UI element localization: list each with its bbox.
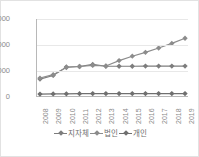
data-point-marker (103, 63, 108, 68)
data-point-marker (143, 91, 148, 96)
legend-item-1[interactable]: 법인 (90, 129, 118, 138)
gridline (37, 19, 188, 20)
x-axis-tick-label: 2019 (188, 114, 195, 124)
plot-area (36, 19, 188, 97)
legend-label: 법인 (104, 129, 118, 138)
data-point-marker (143, 63, 148, 68)
x-axis-label-group: 2008200920102011201220132014201520162017… (36, 98, 188, 128)
data-point-marker (156, 91, 161, 96)
y-axis-tick-label: 2000 (0, 41, 10, 49)
x-axis-tick-label: 2018 (175, 114, 182, 124)
y-axis-tick-label: 3000 (0, 15, 10, 23)
legend-marker-icon (119, 130, 132, 137)
data-point-marker (90, 91, 95, 96)
data-point-marker (156, 63, 161, 68)
x-axis-tick-label: 2011 (82, 114, 89, 124)
data-point-marker (77, 64, 82, 69)
x-axis-tick-label: 2008 (42, 114, 49, 124)
data-point-marker (116, 91, 121, 96)
legend-item-2[interactable]: 개인 (119, 129, 147, 138)
x-axis-tick-label: 2014 (122, 114, 129, 124)
data-point-marker (130, 64, 135, 69)
data-point-marker (169, 91, 174, 96)
data-point-marker (130, 54, 135, 59)
chart-legend: 지자체법인개인 (1, 129, 199, 138)
x-axis-tick-label: 2012 (95, 114, 102, 124)
y-axis-tick-label: 0 (0, 93, 10, 101)
x-axis-tick-label: 2015 (135, 114, 142, 124)
y-axis-tick-label: 1000 (0, 67, 10, 75)
data-point-marker (90, 63, 95, 68)
chart-container: 3000200010000 20082009201020112012201320… (0, 0, 199, 157)
data-point-marker (182, 63, 187, 68)
data-point-marker (50, 91, 55, 96)
data-point-marker (103, 91, 108, 96)
gridline (37, 45, 188, 46)
data-point-marker (64, 65, 69, 70)
data-point-marker (169, 63, 174, 68)
legend-marker-icon (54, 130, 67, 137)
x-axis-tick-label: 2010 (69, 114, 76, 124)
legend-marker-icon (90, 130, 103, 137)
gridline (37, 71, 188, 72)
data-point-marker (182, 91, 187, 96)
data-point-marker (116, 58, 121, 63)
x-axis-tick-label: 2009 (55, 114, 62, 124)
data-point-marker (143, 50, 148, 55)
data-point-marker (37, 75, 42, 80)
data-point-marker (77, 91, 82, 96)
x-axis-tick-label: 2013 (108, 114, 115, 124)
legend-item-0[interactable]: 지자체 (54, 129, 89, 138)
data-point-marker (130, 91, 135, 96)
data-point-marker (116, 64, 121, 69)
series-line-2 (40, 94, 185, 95)
x-axis-tick-label: 2017 (161, 114, 168, 124)
chart-series-layer (37, 19, 188, 96)
x-axis-tick-label: 2016 (148, 114, 155, 124)
data-point-marker (64, 91, 69, 96)
data-point-marker (37, 91, 42, 96)
data-point-marker (156, 45, 161, 50)
legend-label: 지자체 (68, 129, 89, 138)
data-point-marker (182, 36, 187, 41)
legend-label: 개인 (133, 129, 147, 138)
